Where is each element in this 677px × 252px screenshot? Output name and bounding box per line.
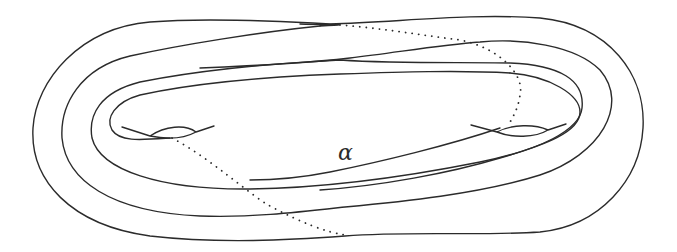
- right-handle-lens: [471, 124, 566, 136]
- inner-boundary-curve: [250, 128, 500, 180]
- second-boundary-curve: [62, 26, 612, 216]
- left-handle-lens: [122, 126, 214, 138]
- inner-boundary-curve-c: [320, 73, 580, 190]
- second-boundary-curve-top: [300, 24, 339, 26]
- inner-boundary-curve-b: [110, 71, 510, 139]
- dotted-meridian-curve-top: [340, 25, 521, 126]
- third-boundary-curve: [91, 60, 582, 189]
- surface-drawing: [0, 0, 677, 252]
- alpha-label: α: [338, 140, 353, 165]
